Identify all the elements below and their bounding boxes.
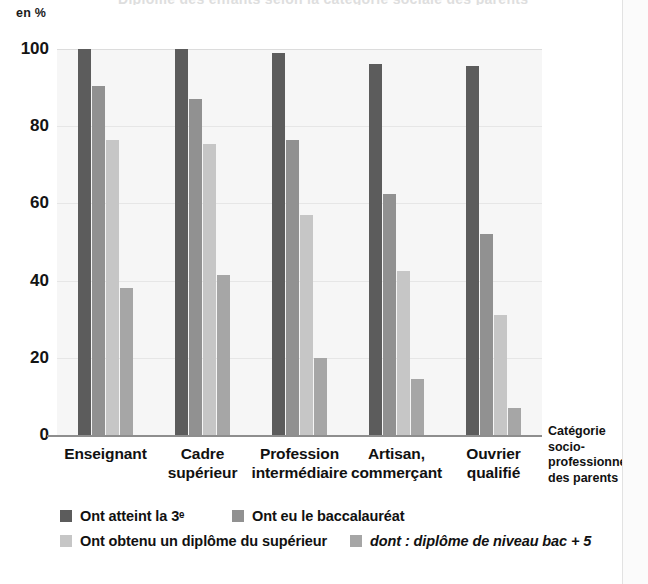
y-axis-unit-label: en % xyxy=(16,6,46,20)
legend-swatch-icon xyxy=(350,535,362,547)
x-axis-category-labels: EnseignantCadresupérieurProfessioninterm… xyxy=(57,444,542,500)
bar xyxy=(92,86,105,435)
bar xyxy=(217,275,230,435)
x-axis-category-label-line: Enseignant xyxy=(57,444,154,463)
x-axis-category-label: Enseignant xyxy=(57,444,154,500)
x-axis-category-label-line: Ouvrier xyxy=(445,444,542,463)
x-axis-category-label: Cadresupérieur xyxy=(154,444,251,500)
x-axis-line xyxy=(47,435,542,437)
legend-item[interactable]: Ont atteint la 3ᵉ xyxy=(60,508,232,524)
bar xyxy=(203,144,216,435)
legend-label: Ont atteint la 3ᵉ xyxy=(80,508,184,524)
plot-area xyxy=(57,49,542,435)
bar xyxy=(300,215,313,435)
legend-swatch-icon xyxy=(60,510,72,522)
bar xyxy=(383,194,396,435)
legend-label: dont : diplôme de niveau bac + 5 xyxy=(370,533,591,549)
legend-label: Ont obtenu un diplôme du supérieur xyxy=(80,533,327,549)
y-tick-label: 0 xyxy=(3,425,49,445)
legend-swatch-icon xyxy=(60,535,72,547)
bar xyxy=(286,140,299,435)
bar xyxy=(411,379,424,435)
bar xyxy=(466,66,479,435)
legend-item[interactable]: Ont obtenu un diplôme du supérieur xyxy=(60,533,350,549)
legend-swatch-icon xyxy=(232,510,244,522)
y-tick-label: 80 xyxy=(3,116,49,136)
y-tick-label: 60 xyxy=(3,193,49,213)
x-axis-category-label-line: commerçant xyxy=(348,463,445,482)
legend-row: Ont obtenu un diplôme du supérieurdont :… xyxy=(60,533,620,549)
bar xyxy=(480,234,493,435)
bar xyxy=(397,271,410,435)
x-axis-category-label-line: Cadre xyxy=(154,444,251,463)
x-axis-category-label: Artisan,commerçant xyxy=(348,444,445,500)
legend-item[interactable]: Ont eu le baccalauréat xyxy=(232,508,405,524)
bar xyxy=(272,53,285,435)
bar-group xyxy=(445,49,542,435)
y-tick-label: 40 xyxy=(3,271,49,291)
bar xyxy=(120,288,133,435)
bar xyxy=(369,64,382,435)
y-axis-tick-labels: 100806040200 xyxy=(0,49,49,435)
x-axis-category-label-line: supérieur xyxy=(154,463,251,482)
page-gutter xyxy=(623,0,648,584)
chart-page: Diplôme des enfants selon la catégorie s… xyxy=(0,0,648,584)
x-axis-category-label-line: intermédiaire xyxy=(251,463,348,482)
chart-legend: Ont atteint la 3ᵉOnt eu le baccalauréatO… xyxy=(60,508,620,558)
legend-row: Ont atteint la 3ᵉOnt eu le baccalauréat xyxy=(60,508,620,524)
bar xyxy=(494,315,507,435)
bar xyxy=(189,99,202,435)
bar xyxy=(508,408,521,435)
bar xyxy=(314,358,327,435)
cut-off-title: Diplôme des enfants selon la catégorie s… xyxy=(118,0,538,5)
bar-group xyxy=(57,49,154,435)
legend-label: Ont eu le baccalauréat xyxy=(252,508,405,524)
x-axis-category-label-line: Artisan, xyxy=(348,444,445,463)
x-axis-category-label-line: Profession xyxy=(251,444,348,463)
y-tick-label: 100 xyxy=(3,39,49,59)
bar-group xyxy=(154,49,251,435)
bar xyxy=(78,49,91,435)
bar xyxy=(175,49,188,435)
x-axis-category-label-line: qualifié xyxy=(445,463,542,482)
bar-group xyxy=(348,49,445,435)
bar-group xyxy=(251,49,348,435)
legend-item[interactable]: dont : diplôme de niveau bac + 5 xyxy=(350,533,591,549)
page-divider xyxy=(622,0,623,584)
x-axis-category-label: Ouvrierqualifié xyxy=(445,444,542,500)
y-tick-label: 20 xyxy=(3,348,49,368)
bar-groups xyxy=(57,49,542,435)
x-axis-category-label: Professionintermédiaire xyxy=(251,444,348,500)
bar xyxy=(106,140,119,435)
